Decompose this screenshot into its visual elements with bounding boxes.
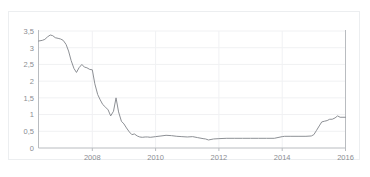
data-series-group — [39, 35, 346, 140]
x-axis-tick-labels: 20082010201220142016 — [84, 153, 354, 162]
x-tick-label: 2010 — [147, 153, 164, 162]
gridlines-group — [39, 31, 346, 148]
data-line-rate — [39, 35, 346, 140]
y-tick-label: 3 — [30, 44, 34, 53]
y-tick-label: 1,5 — [24, 94, 34, 103]
x-tick-label: 2014 — [274, 153, 291, 162]
x-tick-label: 2012 — [211, 153, 228, 162]
y-tick-label: 2,5 — [24, 60, 34, 69]
y-tick-label: 0 — [30, 144, 34, 153]
line-chart: 3,532,521,510,50 20082010201220142016 — [0, 0, 370, 177]
y-tick-label: 0,5 — [24, 127, 34, 136]
y-tick-label: 2 — [30, 77, 34, 86]
y-tick-label: 3,5 — [24, 27, 34, 36]
x-tick-label: 2016 — [337, 153, 354, 162]
y-axis-tick-labels: 3,532,521,510,50 — [24, 27, 34, 153]
y-tick-label: 1 — [30, 110, 34, 119]
x-tick-label: 2008 — [84, 153, 101, 162]
